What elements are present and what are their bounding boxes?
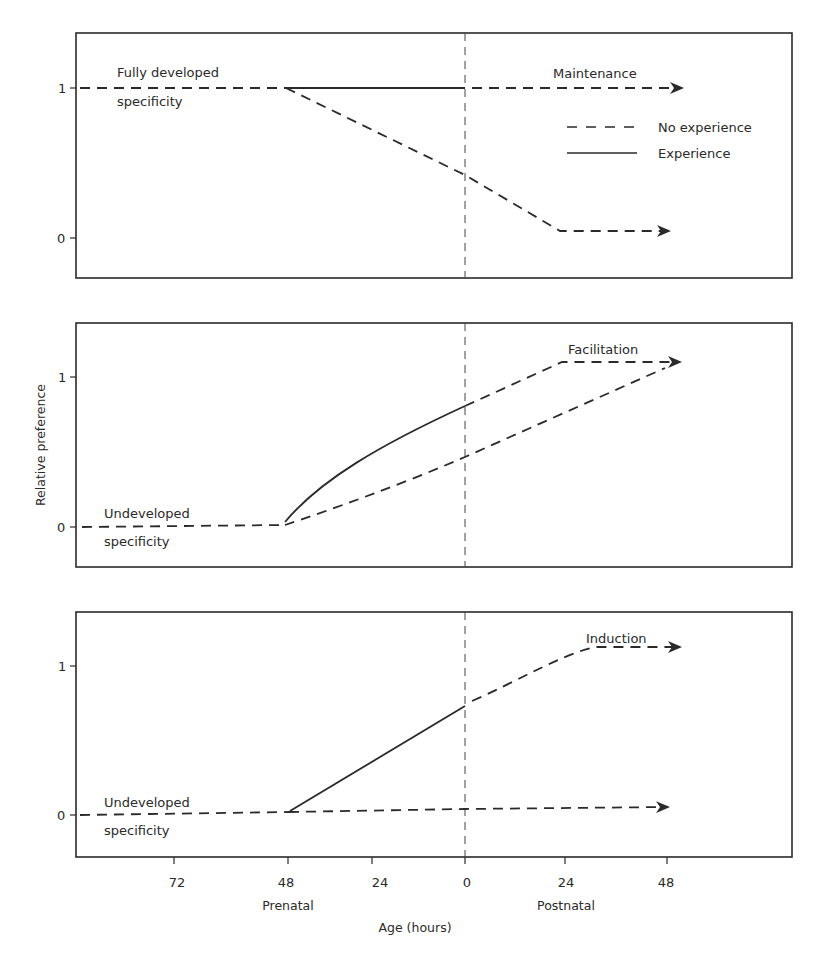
panel-maintenance: 1 0 Fully developed specificity Maintena… — [57, 33, 792, 278]
panel-title-maintenance: Maintenance — [553, 66, 637, 81]
figure: 1 0 Fully developed specificity Maintena… — [0, 0, 827, 972]
panel-title-facilitation: Facilitation — [568, 342, 638, 357]
panel-induction: 1 0 Undeveloped specificity Induction — [57, 612, 792, 857]
no-experience-dashed — [289, 807, 668, 812]
panel-frame — [76, 323, 792, 567]
y-tick-label-0: 0 — [57, 520, 65, 535]
note-line2: specificity — [117, 94, 183, 109]
panel-title-induction: Induction — [586, 631, 647, 646]
note-line2: specificity — [104, 534, 170, 549]
baseline-dashed — [80, 812, 289, 815]
x-axis: 72 48 24 0 24 48 Prenatal Postnatal Age … — [169, 857, 675, 935]
y-tick-label-1: 1 — [58, 370, 66, 385]
experience-solid — [285, 406, 465, 522]
y-axis-title: Relative preference — [33, 384, 48, 506]
x-tick-label: 48 — [658, 875, 675, 890]
no-experience-dashed — [285, 368, 665, 525]
y-tick-label-0: 0 — [57, 231, 65, 246]
experience-solid — [290, 706, 465, 811]
prenatal-label: Prenatal — [262, 898, 314, 913]
legend: No experience Experience — [567, 120, 752, 161]
no-experience-dashed — [286, 88, 669, 231]
legend-no-experience: No experience — [658, 120, 752, 135]
legend-experience: Experience — [658, 146, 731, 161]
y-tick-label-1: 1 — [58, 81, 66, 96]
y-tick-label-0: 0 — [57, 808, 65, 823]
postnatal-label: Postnatal — [537, 898, 595, 913]
x-tick-label: 48 — [278, 875, 295, 890]
experience-continuation-dashed — [465, 362, 680, 406]
x-tick-label: 0 — [463, 875, 471, 890]
panel-frame — [76, 612, 792, 857]
experience-continuation-dashed — [472, 647, 680, 701]
panel-facilitation: 1 0 Relative preference Undeveloped spec… — [33, 323, 792, 567]
x-tick-label: 72 — [169, 875, 186, 890]
x-axis-title: Age (hours) — [378, 920, 451, 935]
note-line1: Undeveloped — [104, 795, 190, 810]
note-line1: Fully developed — [117, 65, 219, 80]
x-tick-label: 24 — [372, 875, 389, 890]
note-line1: Undeveloped — [104, 506, 190, 521]
baseline-dashed — [82, 525, 284, 527]
y-tick-label-1: 1 — [58, 659, 66, 674]
x-tick-label: 24 — [558, 875, 575, 890]
note-line2: specificity — [104, 823, 170, 838]
